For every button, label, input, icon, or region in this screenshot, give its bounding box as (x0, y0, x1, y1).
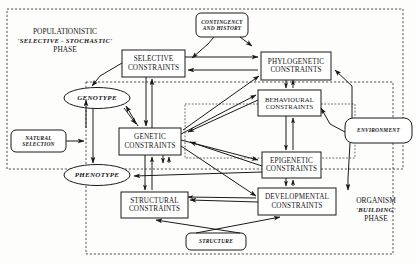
epigenetic-constraints-box (262, 152, 321, 178)
developmental-constraints-box (258, 188, 336, 215)
arrow-structure-to-structural (156, 220, 240, 233)
environment-box (345, 118, 412, 143)
behavioural-constraints-box (258, 90, 321, 116)
arrow-developmental-to-structural (190, 200, 258, 202)
natural-selection-box (11, 130, 66, 152)
arrow-contingency-to-selective (240, 37, 252, 46)
arrow-selective-to-genotype (92, 63, 122, 86)
structure-box (186, 233, 246, 250)
arrow-structure-to-developmental (196, 217, 280, 233)
arrow-genetic-to-behavioural (181, 95, 256, 134)
organism-line-3: PHASE (340, 214, 412, 224)
arrow-epigenetic-to-genetic (190, 142, 262, 166)
populationistic-line-1: POPULATIONISTIC (13, 27, 117, 37)
genotype-ellipse (64, 88, 130, 109)
diagram-canvas: SELECTIVE CONSTRAINTS PHYLOGENETIC CONST… (0, 0, 417, 264)
arrow-genetic-to-genotype (126, 106, 138, 126)
populationistic-phase-caption: POPULATIONISTIC 'SELECTIVE - STOCHASTIC'… (13, 27, 117, 55)
organism-phase-caption: ORGANISM 'BUILDING' PHASE (340, 196, 412, 224)
phenotype-ellipse (64, 165, 130, 186)
arrow-genotype-to-genetic (124, 108, 136, 124)
genetic-constraints-box (119, 128, 181, 155)
structural-constraints-box (121, 192, 188, 218)
organism-line-2: 'BUILDING' (340, 206, 412, 215)
arrow-developmental-to-structural-b (188, 197, 256, 198)
arrow-genetic-to-developmental (181, 146, 256, 196)
arrow-environment-to-behavioural (321, 108, 345, 132)
arrow-contingency-to-phylogenetic (192, 37, 214, 58)
organism-line-1: ORGANISM (340, 196, 412, 206)
arrow-behavioural-to-genetic (188, 100, 258, 132)
organism-phase-boundary (86, 82, 393, 254)
populationistic-line-2: 'SELECTIVE - STOCHASTIC' (13, 37, 117, 46)
arrow-epigenetic-to-phenotype (134, 172, 262, 176)
phylogenetic-constraints-box (261, 52, 331, 80)
populationistic-line-3: PHASE (13, 45, 117, 55)
arrow-environment-to-phylogenetic (335, 70, 352, 118)
arrow-genetic-to-phylogenetic (183, 76, 259, 130)
contingency-box (196, 13, 248, 37)
arrow-environment-to-developmental (348, 143, 350, 190)
selective-constraints-box (122, 50, 185, 77)
